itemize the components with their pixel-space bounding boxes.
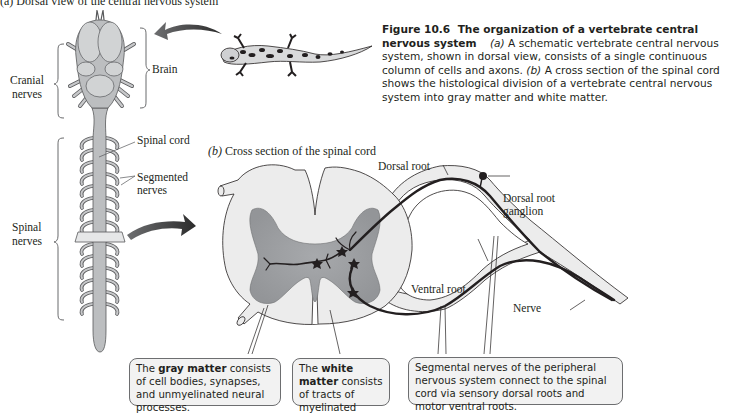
label-segmented-nerves-1: Segmented xyxy=(137,171,188,184)
label-ventral-root: Ventral root xyxy=(411,283,466,296)
brain-shape xyxy=(76,10,125,108)
label-spinal-nerves-1: Spinal xyxy=(12,221,41,234)
arrow-to-dorsal-view xyxy=(154,22,222,40)
spinal-cord-cross-section xyxy=(218,165,628,354)
label-segmented-nerves-2: nerves xyxy=(137,184,167,197)
label-nerve: Nerve xyxy=(513,302,541,315)
label-cranial-nerves-2: nerves xyxy=(12,88,42,101)
label-dorsal-root: Dorsal root xyxy=(378,160,430,173)
spinal-cord-shape xyxy=(92,108,108,352)
figure-number: Figure 10.6 xyxy=(382,23,450,35)
part-a-title: (a) Dorsal view of the central nervous s… xyxy=(0,0,218,9)
callout-white-matter: The white matter consists of tracts of m… xyxy=(292,358,390,406)
term-gray-matter: gray matter xyxy=(158,363,226,374)
label-cranial-nerves-1: Cranial xyxy=(10,74,44,87)
label-dorsal-root-ganglion-2: ganglion xyxy=(503,205,543,218)
figure-caption: Figure 10.6 The organization of a verteb… xyxy=(382,23,727,105)
caption-b-marker: (b) xyxy=(526,64,541,76)
label-brain: Brain xyxy=(152,63,178,76)
part-b-title-text: Cross section of the spinal cord xyxy=(225,144,376,158)
part-b-marker: (b) xyxy=(208,144,222,158)
label-spinal-cord: Spinal cord xyxy=(137,134,190,147)
arrow-to-cross-section xyxy=(127,214,196,240)
callout-segmental-nerves: Segmental nerves of the peripheral nervo… xyxy=(408,357,623,405)
salamander-illustration xyxy=(221,34,372,76)
part-b-title: (b) Cross section of the spinal cord xyxy=(208,144,376,159)
caption-a-marker: (a) xyxy=(490,37,505,49)
label-dorsal-root-ganglion-1: Dorsal root xyxy=(503,192,555,205)
label-spinal-nerves-2: nerves xyxy=(12,235,42,248)
dorsal-view-cns xyxy=(54,10,150,352)
dorsal-root-ganglion-cell xyxy=(479,172,487,180)
callout-gray-matter: The gray matter consists of cell bodies,… xyxy=(129,358,281,406)
